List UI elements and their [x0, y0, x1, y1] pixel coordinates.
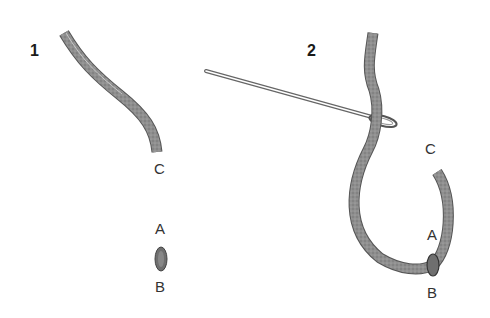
step2-label-c: C [425, 140, 436, 157]
step-number-2: 2 [307, 42, 316, 60]
step1-thread [64, 33, 157, 152]
step2-label-a: A [427, 226, 437, 243]
stitch-diagram: 1 C A B 2 C A B [0, 0, 490, 318]
step1-label-c: C [154, 160, 165, 177]
step-number-1: 1 [30, 42, 39, 60]
illustration [0, 0, 490, 318]
step2-label-b: B [427, 284, 437, 301]
step1-label-b: B [155, 278, 165, 295]
step1-stitch [155, 247, 167, 271]
step1-label-a: A [155, 220, 165, 237]
